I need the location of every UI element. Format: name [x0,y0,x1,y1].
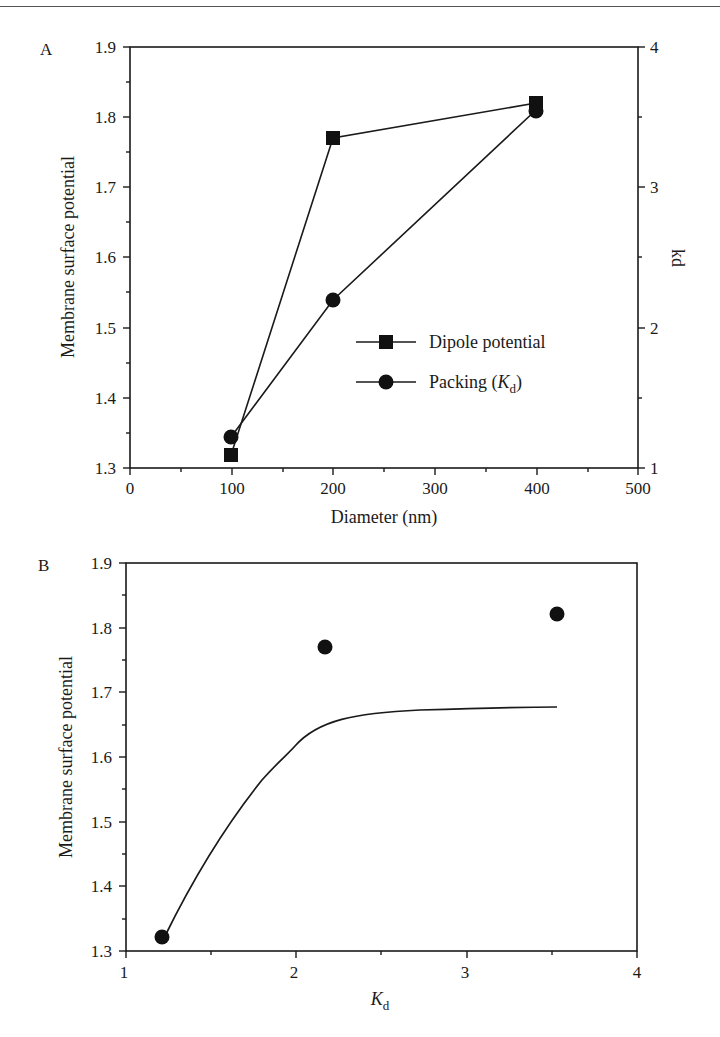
svg-text:1.6: 1.6 [91,748,112,767]
svg-text:1.6: 1.6 [95,248,116,267]
svg-text:4: 4 [633,963,642,982]
svg-text:1: 1 [650,459,659,478]
panel-b-label: B [38,556,49,575]
svg-text:400: 400 [524,479,550,498]
panel-b-plot-frame [126,563,637,951]
svg-text:1.3: 1.3 [95,459,116,478]
svg-text:300: 300 [422,479,448,498]
series-dipole-potential [224,96,543,462]
legend-circle-icon [379,375,394,390]
svg-text:1.3: 1.3 [91,942,112,961]
figure: A 1.3 1.4 1.5 1.6 1.7 1.8 1.9 [0,0,720,1037]
panel-a-plot-frame [130,47,638,468]
panel-a-left-ticks [123,47,130,468]
svg-text:1.4: 1.4 [91,877,113,896]
svg-text:3: 3 [650,178,659,197]
panel-b-y-ticks [119,563,126,951]
svg-text:Dipole potential: Dipole potential [429,332,545,352]
panel-a: A 1.3 1.4 1.5 1.6 1.7 1.8 1.9 [40,38,688,528]
marker-circle [326,293,341,308]
svg-text:1.5: 1.5 [91,813,112,832]
svg-text:1.8: 1.8 [91,619,112,638]
svg-text:1.9: 1.9 [95,38,116,57]
panel-b-x-axis-title: Kd [370,989,390,1013]
marker-circle [155,930,170,945]
svg-text:1.5: 1.5 [95,319,116,338]
svg-text:1.8: 1.8 [95,108,116,127]
svg-text:4: 4 [650,38,659,57]
svg-text:Packing (Kd): Packing (Kd) [429,372,522,396]
svg-text:1.4: 1.4 [95,389,117,408]
svg-text:1.9: 1.9 [91,554,112,573]
marker-square [224,448,238,462]
marker-circle [550,607,565,622]
svg-text:1: 1 [120,963,129,982]
panel-a-label: A [40,40,53,59]
svg-text:1.7: 1.7 [95,178,117,197]
svg-text:200: 200 [320,479,346,498]
panel-a-x-ticks [130,468,638,475]
panel-b: B 1.3 1.4 1.5 1.6 1.7 1.8 1.9 [38,554,642,1013]
marker-circle [318,640,333,655]
panel-a-right-ticks [638,47,645,468]
svg-text:2: 2 [290,963,299,982]
series-packing-kd [224,104,544,445]
series-surface-potential-vs-kd [155,607,565,945]
svg-text:3: 3 [461,963,470,982]
panel-a-y-axis-title: Membrane surface potential [58,156,78,358]
svg-text:0: 0 [126,479,135,498]
svg-text:100: 100 [219,479,245,498]
panel-a-x-tick-labels: 0 100 200 300 400 500 [126,479,651,498]
legend-item-dipole: Dipole potential [356,332,545,352]
svg-text:2: 2 [650,319,659,338]
panel-a-y2-axis-title: kd [668,249,688,267]
marker-circle [224,430,239,445]
panel-b-y-tick-labels: 1.3 1.4 1.5 1.6 1.7 1.8 1.9 [91,554,113,961]
legend-item-packing: Packing (Kd) [356,372,522,396]
panel-b-x-ticks [126,951,637,958]
panel-a-legend: Dipole potential Packing (Kd) [356,332,545,396]
legend-square-icon [379,335,393,349]
svg-text:500: 500 [625,479,651,498]
panel-a-x-axis-title: Diameter (nm) [331,507,437,528]
panel-b-x-tick-labels: 1 2 3 4 [120,963,642,982]
svg-text:1.7: 1.7 [91,683,113,702]
panel-a-left-tick-labels: 1.3 1.4 1.5 1.6 1.7 1.8 1.9 [95,38,117,478]
marker-square [326,131,340,145]
panel-a-right-tick-labels: 1 2 3 4 [650,38,659,478]
marker-circle [529,104,544,119]
panel-b-y-axis-title: Membrane surface potential [56,656,76,858]
